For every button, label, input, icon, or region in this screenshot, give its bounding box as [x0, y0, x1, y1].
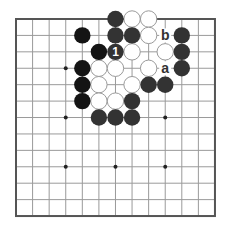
black-stone	[107, 109, 123, 125]
white-stone	[107, 93, 123, 109]
go-board: 1 ba	[0, 0, 227, 229]
go-board-diagram: 1 ba	[0, 0, 227, 229]
black-stone	[74, 93, 90, 109]
black-stone	[124, 109, 140, 125]
star-point-icon	[64, 116, 68, 120]
black-stone	[74, 27, 90, 43]
star-point-icon	[64, 165, 68, 169]
black-stone	[107, 27, 123, 43]
white-stone	[124, 76, 140, 92]
star-point-icon	[113, 165, 117, 169]
black-stone	[124, 93, 140, 109]
black-stone	[157, 76, 173, 92]
numbered-moves: 1	[107, 44, 123, 60]
black-stone	[140, 76, 156, 92]
black-stone	[107, 11, 123, 27]
white-stone	[140, 11, 156, 27]
white-stone	[91, 93, 107, 109]
point-label: b	[161, 27, 170, 43]
black-stone	[91, 44, 107, 60]
white-stone	[124, 11, 140, 27]
point-label: a	[161, 60, 169, 76]
black-stone	[124, 27, 140, 43]
white-stone	[157, 44, 173, 60]
black-stone	[91, 109, 107, 125]
white-stone	[107, 60, 123, 76]
white-stone	[140, 60, 156, 76]
move-number: 1	[112, 45, 119, 59]
black-stone	[74, 60, 90, 76]
star-point-icon	[64, 66, 68, 70]
black-stone	[174, 44, 190, 60]
white-stone	[140, 27, 156, 43]
black-stone	[174, 60, 190, 76]
white-stone	[124, 44, 140, 60]
black-stone	[174, 27, 190, 43]
black-stone	[74, 76, 90, 92]
star-point-icon	[163, 165, 167, 169]
white-stone	[91, 76, 107, 92]
star-point-icon	[163, 116, 167, 120]
white-stone	[91, 60, 107, 76]
